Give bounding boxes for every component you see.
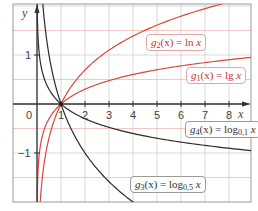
x-tick-3: 3: [106, 110, 112, 121]
label-g1-lg: g1(x) = lg x: [186, 67, 246, 84]
x-tick-6: 6: [178, 110, 184, 121]
label-g3-log05: g3(x) = log0,5 x: [130, 176, 206, 193]
chart-frame: [13, 4, 251, 202]
x-tick-2: 2: [82, 110, 88, 121]
x-tick-8: 8: [226, 110, 232, 121]
y-tick-1: 1: [25, 50, 31, 61]
y-axis-label: y: [22, 6, 27, 21]
y-axis-arrow-icon: [35, 4, 40, 13]
y-tick-neg1: −1: [18, 148, 31, 159]
log-function-chart: [0, 0, 258, 211]
x-tick-7: 7: [202, 110, 208, 121]
label-g4-log01: g4(x) = log0,1 x: [185, 121, 258, 138]
x-tick-1: 1: [58, 110, 64, 121]
x-tick-0: 0: [26, 110, 32, 121]
x-axis-label: x: [238, 107, 243, 122]
grid: [13, 4, 251, 202]
common-point-marker: [59, 102, 63, 106]
x-axis-arrow-icon: [242, 102, 251, 107]
label-g2-ln: g2(x) = ln x: [146, 34, 206, 51]
x-tick-4: 4: [130, 110, 136, 121]
x-tick-5: 5: [154, 110, 160, 121]
axes: [13, 4, 251, 202]
